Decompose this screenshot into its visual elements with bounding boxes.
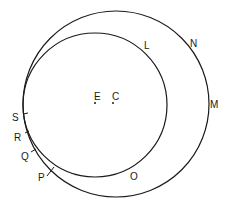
label-L: L [144, 40, 150, 51]
label-P: P [38, 172, 45, 183]
label-R: R [14, 132, 21, 143]
label-E: E [94, 91, 101, 102]
label-Q: Q [21, 151, 29, 162]
point-E-dot [94, 102, 96, 104]
label-S: S [12, 112, 19, 123]
inner-circle [23, 33, 167, 177]
label-M: M [210, 99, 218, 110]
eccentric-circles-diagram: E C L N M S R Q P O [0, 0, 230, 204]
label-N: N [190, 38, 197, 49]
label-C: C [112, 91, 119, 102]
label-O: O [130, 171, 138, 182]
point-C-dot [112, 102, 114, 104]
outer-circle [23, 11, 209, 197]
